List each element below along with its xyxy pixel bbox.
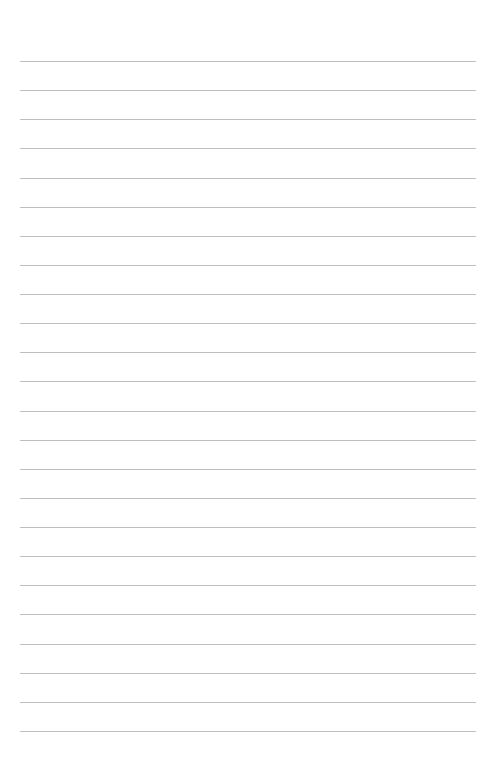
lined-paper-page xyxy=(0,0,494,769)
ruled-line xyxy=(20,440,476,441)
ruled-line xyxy=(20,527,476,528)
ruled-line xyxy=(20,119,476,120)
ruled-line xyxy=(20,90,476,91)
ruled-line xyxy=(20,702,476,703)
ruled-line xyxy=(20,411,476,412)
ruled-line xyxy=(20,352,476,353)
ruled-line xyxy=(20,61,476,62)
ruled-line xyxy=(20,469,476,470)
ruled-line xyxy=(20,323,476,324)
ruled-line xyxy=(20,207,476,208)
ruled-line xyxy=(20,556,476,557)
ruled-line xyxy=(20,294,476,295)
ruled-line xyxy=(20,236,476,237)
ruled-line xyxy=(20,731,476,732)
ruled-line xyxy=(20,585,476,586)
ruled-line xyxy=(20,614,476,615)
ruled-line xyxy=(20,265,476,266)
ruled-line xyxy=(20,498,476,499)
ruled-line xyxy=(20,178,476,179)
ruled-line xyxy=(20,148,476,149)
ruled-line xyxy=(20,673,476,674)
ruled-line xyxy=(20,644,476,645)
ruled-line xyxy=(20,381,476,382)
